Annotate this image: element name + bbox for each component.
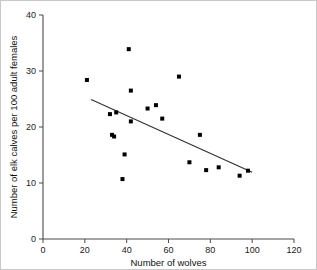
x-tick-label: 20 (80, 245, 90, 255)
x-tick-label: 100 (245, 245, 260, 255)
data-point (85, 78, 89, 82)
y-tick-label: 20 (26, 122, 36, 132)
data-point (146, 107, 150, 111)
y-axis-title: Number of elk calves per 100 adult femal… (8, 35, 19, 218)
data-point (123, 152, 127, 156)
data-point (112, 135, 116, 139)
y-tick-label: 0 (31, 234, 36, 244)
x-tick-label: 80 (205, 245, 215, 255)
data-point (238, 174, 242, 178)
x-tick-label: 40 (122, 245, 132, 255)
data-point (129, 89, 133, 93)
x-tick-label: 60 (163, 245, 173, 255)
chart-figure: 020406080100120010203040Number of wolves… (0, 0, 317, 270)
data-point (198, 133, 202, 137)
y-tick-label: 30 (26, 66, 36, 76)
data-point (108, 112, 112, 116)
data-point (204, 168, 208, 172)
data-point (160, 117, 164, 121)
data-point (187, 160, 191, 164)
x-axis-title: Number of wolves (130, 257, 206, 268)
data-point (114, 110, 118, 114)
data-point (177, 75, 181, 79)
data-point (127, 47, 131, 51)
data-point (154, 103, 158, 107)
data-point (120, 177, 124, 181)
data-point (129, 119, 133, 123)
x-tick-label: 0 (40, 245, 45, 255)
y-tick-label: 10 (26, 178, 36, 188)
y-tick-label: 40 (26, 10, 36, 20)
x-tick-label: 120 (286, 245, 301, 255)
scatter-plot: 020406080100120010203040Number of wolves… (1, 1, 317, 270)
data-point (217, 165, 221, 169)
data-point (246, 169, 250, 173)
